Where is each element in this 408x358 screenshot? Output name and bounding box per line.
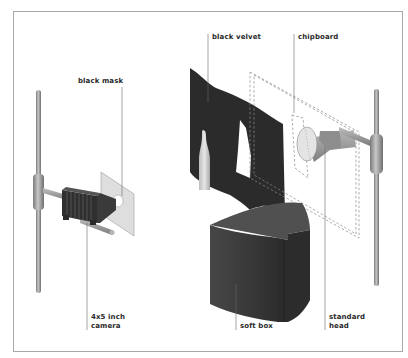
label-black-velvet: black velvet bbox=[212, 33, 261, 42]
lighting-diagram bbox=[0, 0, 408, 358]
label-camera-line1: 4x5 inch bbox=[91, 313, 125, 322]
right-stand bbox=[370, 89, 383, 286]
label-chipboard: chipboard bbox=[298, 33, 338, 42]
soft-box bbox=[210, 202, 310, 322]
label-head-line2: head bbox=[329, 322, 349, 331]
label-black-mask: black mask bbox=[78, 77, 123, 86]
label-soft-box: soft box bbox=[240, 322, 273, 331]
label-camera-line2: camera bbox=[91, 322, 121, 331]
label-head-line1: standard bbox=[329, 313, 365, 322]
